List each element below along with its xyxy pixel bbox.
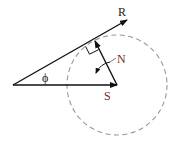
label-phi: ϕ: [42, 71, 48, 85]
n-leader-line: [110, 58, 116, 62]
label-n: N: [117, 52, 126, 66]
label-s: S: [104, 89, 111, 103]
right-angle-marker: [86, 46, 99, 54]
label-r: R: [118, 5, 126, 19]
vector-r-arrow: [13, 20, 127, 85]
vector-diagram: R N S ϕ: [0, 0, 177, 144]
